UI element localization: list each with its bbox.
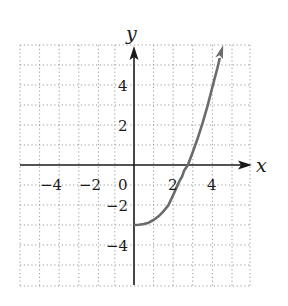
y-axis-label: y (125, 22, 137, 44)
y-tick-label: 4 (118, 77, 128, 95)
y-tick-label: −4 (106, 237, 128, 255)
x-axis (20, 161, 252, 170)
x-tick-label: 2 (168, 176, 178, 194)
x-axis-label: x (256, 154, 267, 176)
x-tick-label: −4 (40, 176, 62, 194)
curve-arrow-icon (215, 45, 223, 59)
function-curve (134, 45, 223, 225)
coordinate-plane: x y −4 −2 0 2 4 4 2 −2 −4 (0, 0, 288, 306)
x-tick-label: 4 (207, 176, 217, 194)
origin-label: 0 (118, 176, 128, 194)
x-tick-label: −2 (79, 176, 101, 194)
y-tick-label: −2 (106, 197, 128, 215)
y-tick-label: 2 (118, 117, 128, 135)
